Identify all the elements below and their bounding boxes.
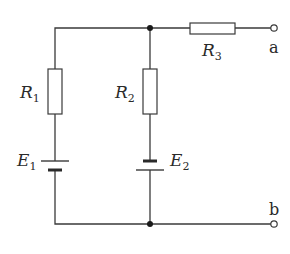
battery-e2 [136,161,164,170]
label-r1: R1 [19,82,40,105]
resistor-r3 [190,23,235,34]
label-e2: E2 [169,150,189,173]
label-e1: E1 [16,150,36,173]
terminal-a [271,25,277,31]
battery-e1 [41,161,69,170]
resistor-r2 [143,69,157,114]
label-terminal-b: b [269,200,279,219]
circuit-diagram: R1 R2 R3 E1 E2 a b [0,0,290,254]
label-r3: R3 [201,40,222,63]
label-terminal-a: a [269,38,279,57]
junction-node-top [147,25,153,31]
top-wire [55,28,190,69]
terminal-b [271,221,277,227]
label-r2: R2 [114,82,135,105]
resistor-r1 [48,69,62,114]
wire-e1-to-bottom [55,170,150,224]
junction-node-bottom [147,221,153,227]
wires [55,28,271,224]
